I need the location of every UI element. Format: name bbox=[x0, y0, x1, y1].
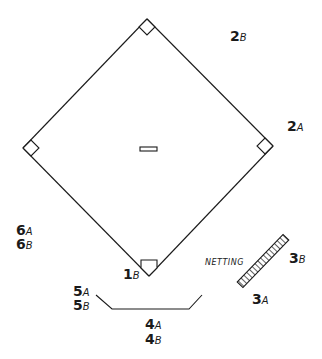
label-2a: 2A bbox=[287, 118, 304, 134]
label-2b: 2B bbox=[230, 28, 247, 44]
third-base-icon bbox=[23, 140, 39, 156]
netting-icon bbox=[237, 234, 289, 287]
label-3a: 3A bbox=[252, 291, 269, 307]
label-5b: 5B bbox=[73, 297, 90, 313]
baseball-field-diagram bbox=[0, 0, 322, 359]
label-4a: 4A bbox=[145, 316, 162, 332]
home-plate-icon bbox=[141, 260, 157, 276]
dugout-line bbox=[96, 295, 202, 309]
label-4b: 4B bbox=[145, 331, 162, 347]
label-3b: 3B bbox=[289, 250, 306, 266]
label-1b: 1B bbox=[123, 266, 140, 282]
netting-label: NETTING bbox=[205, 258, 244, 267]
second-base-icon bbox=[139, 19, 155, 35]
first-base-icon bbox=[257, 138, 273, 154]
pitcher-rubber-icon bbox=[140, 147, 157, 151]
label-6b: 6B bbox=[16, 236, 33, 252]
